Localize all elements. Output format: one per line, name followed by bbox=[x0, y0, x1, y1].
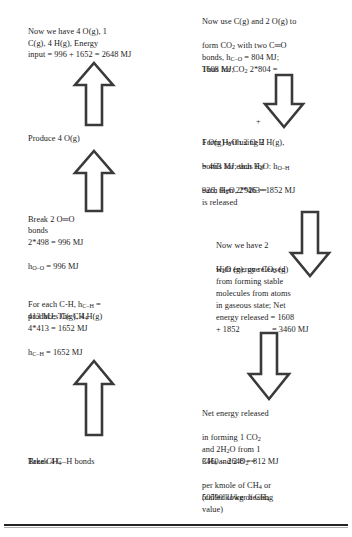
text-block-produce-oxygen: Produce 4 O(g) bbox=[28, 133, 188, 145]
text-block-ch-bond-line4: 4*413 = 1652 MJ bbox=[28, 323, 198, 335]
arrow-up-energy-input bbox=[72, 60, 116, 128]
text-block-energy-input-summary: Now we have 4 O(g), 1 C(g), 4 H(g), Ener… bbox=[28, 26, 188, 61]
text-block-form-water-line4: = 463 MJ; thus for bbox=[202, 161, 352, 173]
value-oo: = 996 MJ bbox=[44, 262, 78, 271]
text-block-form-co2-line1: Now use C(g) and 2 O(g) to bbox=[202, 16, 352, 28]
text-block-lhv-line1: Net energy released bbox=[202, 408, 348, 420]
subscript-oo: O–O bbox=[32, 264, 44, 271]
text-block-break-oo-line2: bonds bbox=[28, 225, 188, 237]
text-block-net-release-line1: Now we have 2 bbox=[216, 240, 352, 252]
text-block-net-release-line6: in gaseous state; Net bbox=[216, 300, 352, 312]
text-block-take-methane-line2: Break 4 C–H bonds bbox=[28, 456, 198, 468]
document-page: Now we have 4 O(g), 1 C(g), 4 H(g), Ener… bbox=[0, 0, 352, 537]
footer-horizontal-rule bbox=[4, 524, 348, 526]
arrow-up-break-ch-bonds bbox=[72, 358, 116, 438]
arrow-down-form-co2 bbox=[262, 72, 306, 130]
value-ch: = 1652 MJ bbox=[44, 348, 83, 357]
text-block-form-water-line7: is released bbox=[202, 197, 352, 209]
text-block-form-water-line6: 926; then 2*926 = 1852 MJ bbox=[202, 185, 352, 197]
text-block-net-release-line3: with energy released bbox=[216, 264, 352, 276]
arrow-up-produce-oxygen bbox=[72, 148, 116, 214]
text-block-break-oo-line3: 2*498 = 996 MJ bbox=[28, 237, 188, 249]
text-block-lhv-line5: 3460 – 2648 = 812 MJ bbox=[202, 456, 348, 468]
arrow-down-net-energy bbox=[246, 330, 292, 402]
text-block-lhv-line9: value) bbox=[202, 504, 348, 516]
text-block-form-water-line2: 1 O(g) with 2 O-H bbox=[202, 137, 352, 149]
footer-horizontal-rule-shadow bbox=[4, 527, 348, 528]
text-block-ch-bond-line5: hC–H = 1652 MJ bbox=[28, 335, 198, 359]
text-block-net-release-line5: molecules from atoms bbox=[216, 288, 352, 300]
text-block-lhv-line8: (called lower heating bbox=[202, 492, 348, 504]
text-block-break-oo-line1: Break 2 O═O bbox=[28, 214, 188, 226]
text-block-net-release-line4: from forming stable bbox=[216, 276, 352, 288]
text-block-break-oo-line4: hO–O = 996 MJ bbox=[28, 249, 188, 273]
text-block-ch-bond-line3: produces C(g), 4 H(g) bbox=[28, 311, 198, 323]
subscript-ch-2: C–H bbox=[32, 350, 44, 357]
text-block-net-release-line7: energy released = 1608 bbox=[216, 312, 352, 324]
